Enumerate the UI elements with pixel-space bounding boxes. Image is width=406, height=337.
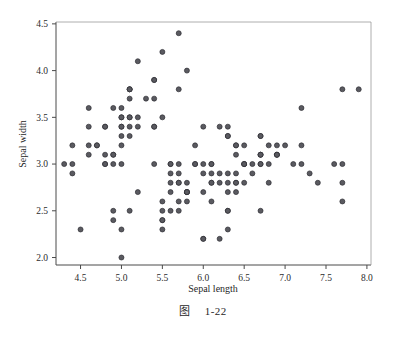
scatter-point — [103, 124, 108, 129]
scatter-point — [168, 171, 173, 176]
x-axis-ticks: 4.55.05.56.06.57.07.58.0 — [75, 265, 373, 283]
x-tick-label: 4.5 — [75, 273, 87, 283]
scatter-point — [234, 143, 239, 148]
scatter-point — [160, 227, 165, 232]
scatter-point — [340, 162, 345, 167]
plot-frame — [56, 22, 371, 265]
scatter-point — [266, 143, 271, 148]
scatter-point — [217, 124, 222, 129]
scatter-point — [103, 152, 108, 157]
scatter-point — [258, 152, 263, 157]
scatter-point — [119, 227, 124, 232]
scatter-point — [176, 162, 181, 167]
scatter-point — [356, 87, 361, 92]
scatter-point — [209, 199, 214, 204]
scatter-point — [111, 208, 116, 213]
scatter-point — [119, 162, 124, 167]
scatter-point — [266, 180, 271, 185]
scatter-point — [127, 134, 132, 139]
y-tick-label: 2.5 — [36, 206, 48, 216]
scatter-point — [127, 115, 132, 120]
scatter-point — [168, 162, 173, 167]
x-tick-label: 7.0 — [279, 273, 291, 283]
scatter-point — [242, 162, 247, 167]
scatter-point — [152, 77, 157, 82]
scatter-point — [86, 152, 91, 157]
scatter-point — [258, 134, 263, 139]
scatter-point — [225, 180, 230, 185]
scatter-point — [184, 190, 189, 195]
scatter-point — [160, 49, 165, 54]
scatter-point — [70, 143, 75, 148]
scatter-point — [217, 171, 222, 176]
scatter-point — [201, 171, 206, 176]
scatter-point — [299, 143, 304, 148]
scatter-point — [225, 171, 230, 176]
scatter-point — [127, 208, 132, 213]
scatter-point — [340, 199, 345, 204]
scatter-point — [193, 162, 198, 167]
figure-container: 4.55.05.56.06.57.07.58.0 2.02.53.03.54.0… — [0, 0, 406, 337]
scatter-point — [160, 218, 165, 223]
scatter-point — [135, 115, 140, 120]
caption-number: 1-22 — [205, 305, 227, 317]
scatter-point — [119, 134, 124, 139]
scatter-point — [209, 171, 214, 176]
x-tick-label: 6.0 — [197, 273, 209, 283]
scatter-point — [144, 96, 149, 101]
scatter-point — [225, 227, 230, 232]
scatter-point — [258, 208, 263, 213]
scatter-point — [135, 124, 140, 129]
scatter-point — [127, 124, 132, 129]
scatter-point — [250, 162, 255, 167]
scatter-point — [274, 143, 279, 148]
caption-prefix: 图 — [179, 305, 191, 317]
y-tick-label: 4.5 — [36, 19, 48, 29]
scatter-point — [176, 171, 181, 176]
scatter-point — [201, 124, 206, 129]
x-tick-label: 8.0 — [361, 273, 373, 283]
x-tick-label: 5.0 — [116, 273, 128, 283]
scatter-point — [86, 105, 91, 110]
figure-caption: 图1-22 — [0, 302, 406, 318]
scatter-point — [78, 227, 83, 232]
scatter-point — [234, 171, 239, 176]
scatter-point — [152, 96, 157, 101]
scatter-point — [119, 124, 124, 129]
scatter-point — [193, 143, 198, 148]
scatter-point — [94, 143, 99, 148]
x-axis-label: Sepal length — [188, 283, 238, 294]
scatter-point — [176, 180, 181, 185]
scatter-point — [242, 180, 247, 185]
scatter-point — [242, 143, 247, 148]
scatter-point — [291, 162, 296, 167]
y-tick-label: 4.0 — [36, 66, 48, 76]
scatter-point — [168, 180, 173, 185]
scatter-point — [86, 143, 91, 148]
y-tick-label: 2.0 — [36, 253, 48, 263]
scatter-point — [340, 87, 345, 92]
scatter-point — [258, 162, 263, 167]
y-tick-label: 3.5 — [36, 113, 48, 123]
scatter-point — [209, 180, 214, 185]
scatter-point — [127, 96, 132, 101]
scatter-point — [135, 190, 140, 195]
scatter-point — [168, 208, 173, 213]
y-tick-label: 3.0 — [36, 159, 48, 169]
scatter-point — [70, 171, 75, 176]
scatter-point — [184, 199, 189, 204]
scatter-point — [315, 180, 320, 185]
scatter-point — [152, 124, 157, 129]
scatter-point — [168, 190, 173, 195]
scatter-point — [135, 59, 140, 64]
scatter-point — [201, 162, 206, 167]
scatter-point — [225, 190, 230, 195]
y-axis-label: Sepal width — [17, 120, 28, 168]
scatter-point — [340, 180, 345, 185]
scatter-point — [234, 180, 239, 185]
scatter-point — [201, 190, 206, 195]
scatter-point — [160, 115, 165, 120]
scatter-point — [160, 208, 165, 213]
scatter-point — [86, 124, 91, 129]
scatter-point — [225, 134, 230, 139]
